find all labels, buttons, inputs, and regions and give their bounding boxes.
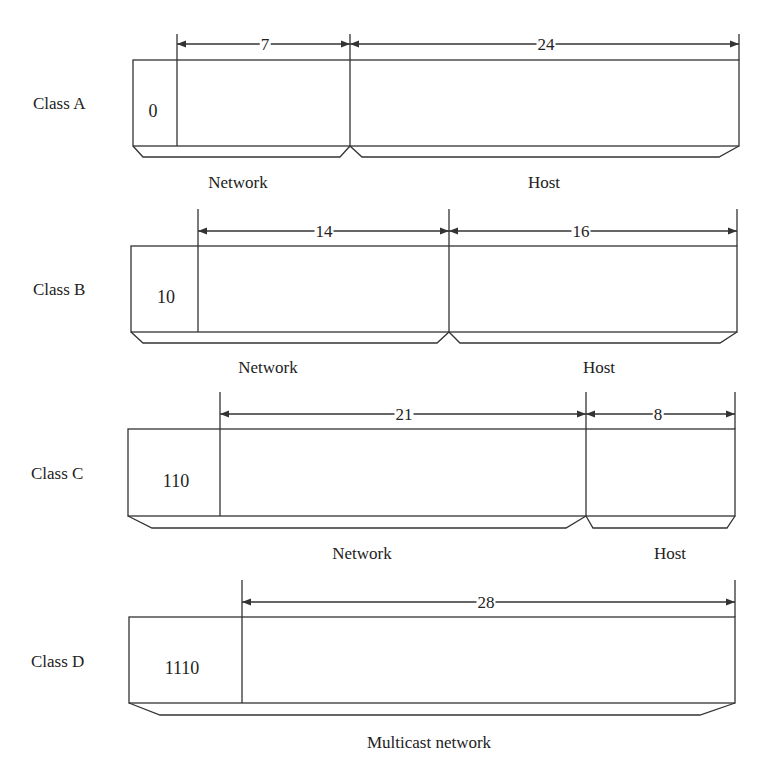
class-a-label: Class A [33,95,85,112]
class-a-network-label: Network [208,174,267,191]
class-a-prefix-bits: 0 [149,102,158,120]
class-c-prefix-bits: 110 [163,472,189,490]
class-d-diagram [129,580,735,715]
class-c-network-label: Network [332,545,391,562]
class-b-label: Class B [33,281,85,298]
class-d-multicast-label: Multicast network [367,734,491,751]
class-d-label: Class D [31,653,84,670]
address-format-diagram [0,0,771,768]
class-c-host-bits: 8 [653,406,664,423]
class-b-host-bits: 16 [572,223,591,240]
class-d-multicast-brace [129,703,735,715]
class-a-network-bits: 7 [260,36,271,53]
class-d-prefix-bits: 1110 [165,659,200,677]
class-c-network-bits: 21 [395,406,414,423]
class-a-diagram [133,34,739,157]
class-b-prefix-bits: 10 [157,288,175,306]
class-b-network-label: Network [238,359,297,376]
class-b-diagram [131,209,737,343]
class-a-host-brace [350,146,739,157]
class-b-host-brace [449,332,737,343]
class-c-network-brace [128,516,586,528]
class-b-network-bits: 14 [315,223,334,240]
class-c-box [128,429,735,516]
class-a-host-label: Host [528,174,560,191]
class-b-network-brace [131,332,449,343]
class-b-host-label: Host [583,359,615,376]
class-d-box [129,617,735,703]
class-c-host-brace [586,516,735,528]
class-c-diagram [128,392,735,528]
class-c-host-label: Host [654,545,686,562]
class-a-network-brace [133,146,350,157]
class-d-multicast-bits: 28 [477,594,496,611]
class-a-box [133,60,739,146]
class-b-box [131,246,737,332]
class-c-label: Class C [31,465,83,482]
class-a-host-bits: 24 [537,36,556,53]
